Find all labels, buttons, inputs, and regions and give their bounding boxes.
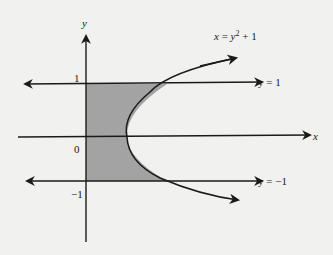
y-axis-label: y <box>81 17 87 29</box>
curve-equation-label: x = y2 + 1 <box>213 29 257 42</box>
origin-label: 0 <box>74 143 80 155</box>
tick-label-neg1: −1 <box>71 188 83 200</box>
parabola-upper-arrow <box>200 58 236 66</box>
line-y-equals-1 <box>25 82 262 84</box>
diagram-canvas: y x 1 0 −1 x = y2 + 1 y = 1 y = −1 <box>0 0 333 255</box>
x-axis-label: x <box>312 130 318 142</box>
tick-label-1: 1 <box>74 72 80 84</box>
line-label-y-equals-1: y = 1 <box>258 76 281 88</box>
line-label-y-equals-neg1: y = −1 <box>258 175 287 187</box>
x-axis <box>18 135 310 137</box>
region-plot: y x 1 0 −1 x = y2 + 1 y = 1 y = −1 <box>0 0 333 255</box>
